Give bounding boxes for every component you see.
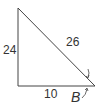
angle-arc-lower-arrow — [82, 89, 87, 98]
triangle-diagram: 24 26 10 B — [0, 0, 105, 107]
label-vertical-leg: 24 — [3, 44, 16, 56]
label-hypotenuse: 26 — [66, 36, 79, 48]
triangle-shape — [18, 8, 95, 86]
label-angle-b: B — [71, 91, 80, 103]
label-horizontal-leg: 10 — [44, 88, 57, 100]
